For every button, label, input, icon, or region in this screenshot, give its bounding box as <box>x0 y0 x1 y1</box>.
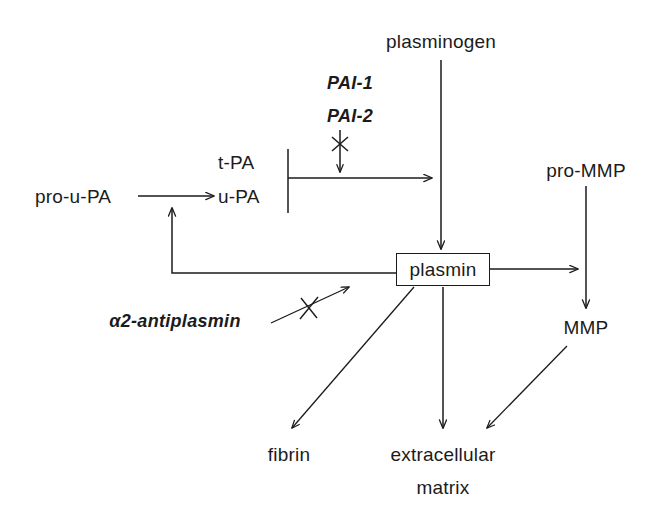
node-extracellular-matrix-line1: extracellular <box>390 443 495 467</box>
node-pro-u-pa: pro-u-PA <box>35 185 111 209</box>
node-pro-mmp: pro-MMP <box>546 159 626 183</box>
node-plasminogen: plasminogen <box>386 30 496 54</box>
node-mmp: MMP <box>564 316 609 340</box>
node-fibrin: fibrin <box>268 443 310 467</box>
arrow-pai-inhibition <box>332 130 348 172</box>
node-plasmin: plasmin <box>396 253 490 286</box>
label-alpha2-antiplasmin: α2-antiplasmin <box>109 311 240 332</box>
arrow-alpha2-antiplasmin-inhibition <box>271 287 349 323</box>
arrow-mmp-to-extracellular-matrix <box>487 346 567 428</box>
node-extracellular-matrix-line2: matrix <box>417 476 470 500</box>
label-pai-1: PAI-1 <box>327 73 373 94</box>
node-t-pa: t-PA <box>218 151 254 175</box>
node-u-pa: u-PA <box>218 185 260 209</box>
label-pai-2: PAI-2 <box>327 106 373 127</box>
arrow-plasmin-to-fibrin <box>292 287 414 428</box>
pathway-diagram-canvas: plasminogen pro-u-PA t-PA u-PA pro-MMP M… <box>0 0 672 512</box>
arrow-plasmin-feedback-to-pro-u-pa <box>172 208 396 273</box>
